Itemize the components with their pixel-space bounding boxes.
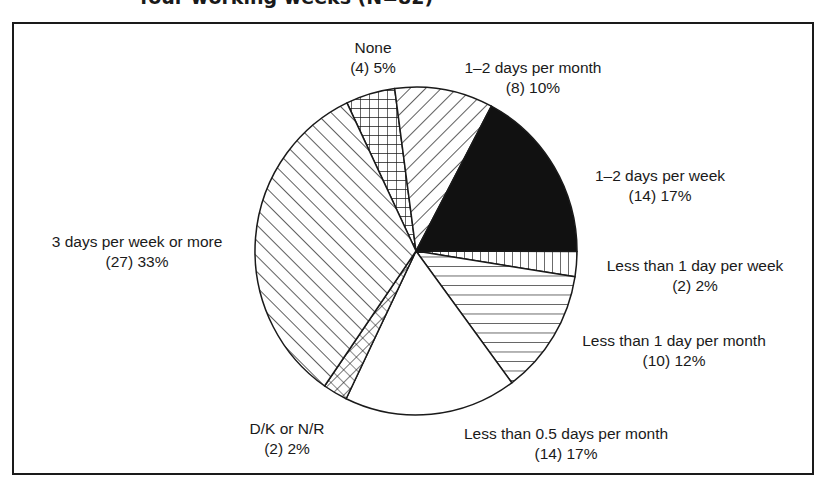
slice-value-text: (10) 12% <box>582 351 766 371</box>
slice-label-text: Less than 0.5 days per month <box>464 424 668 444</box>
slice-label-1-2-days-per-week: 1–2 days per week (14) 17% <box>595 166 725 206</box>
slice-label-text: Less than 1 day per month <box>582 331 766 351</box>
slice-label-dk-or-nr: D/K or N/R (2) 2% <box>250 419 325 459</box>
slice-value-text: (4) 5% <box>350 58 396 78</box>
slice-label-text: 1–2 days per week <box>595 166 725 186</box>
slice-label-1-2-days-per-month: 1–2 days per month (8) 10% <box>464 58 601 98</box>
slice-label-text: Less than 1 day per week <box>607 256 784 276</box>
slice-value-text: (27) 33% <box>52 252 223 272</box>
slice-label-text: 1–2 days per month <box>464 58 601 78</box>
slice-label-none: None (4) 5% <box>350 38 396 78</box>
slice-label-less-than-1-day-per-week: Less than 1 day per week (2) 2% <box>607 256 784 296</box>
slice-value-text: (2) 2% <box>607 276 784 296</box>
slice-label-text: 3 days per week or more <box>52 232 223 252</box>
slice-label-text: None <box>350 38 396 58</box>
slice-value-text: (8) 10% <box>464 78 601 98</box>
slice-value-text: (14) 17% <box>595 186 725 206</box>
slice-label-3-days-per-week-or-more: 3 days per week or more (27) 33% <box>52 232 223 272</box>
slice-label-less-than-0-5-days-per-month: Less than 0.5 days per month (14) 17% <box>464 424 668 464</box>
slice-label-less-than-1-day-per-month: Less than 1 day per month (10) 12% <box>582 331 766 371</box>
slice-value-text: (14) 17% <box>464 444 668 464</box>
slice-label-text: D/K or N/R <box>250 419 325 439</box>
slice-value-text: (2) 2% <box>250 439 325 459</box>
